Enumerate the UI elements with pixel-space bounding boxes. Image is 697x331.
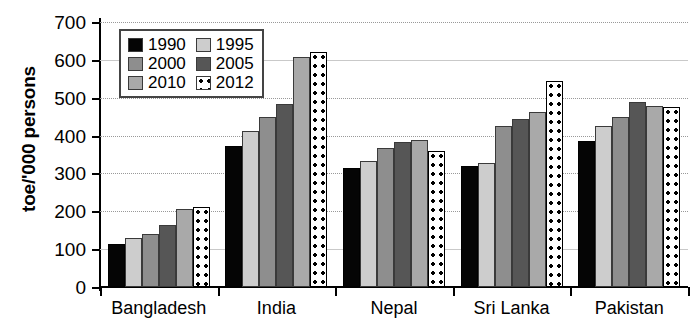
bar-india-2005 xyxy=(276,104,293,287)
bar-group-sri-lanka xyxy=(453,22,571,287)
bar-pakistan-2010 xyxy=(646,106,663,287)
bar-bangladesh-2005 xyxy=(159,225,176,287)
bar-nepal-1990 xyxy=(343,168,360,287)
y-tick-label-0: 0 xyxy=(30,278,86,297)
x-axis-label-sri-lanka: Sri Lanka xyxy=(474,298,550,319)
bar-bangladesh-2012 xyxy=(193,207,210,287)
legend-item-2005[interactable]: 2005 xyxy=(196,55,254,72)
bar-bangladesh-2000 xyxy=(142,234,159,287)
legend-label-2010: 2010 xyxy=(148,74,186,91)
y-tick-mark-600 xyxy=(92,60,100,62)
bar-chart: toe/'000 persons 0100200300400500600700 … xyxy=(0,0,697,331)
bar-nepal-2010 xyxy=(411,140,428,287)
x-tick-mark-3 xyxy=(453,287,455,296)
x-tick-mark-5 xyxy=(688,287,690,296)
bars xyxy=(578,22,680,287)
bars xyxy=(461,22,563,287)
swatch-2000-icon xyxy=(128,57,143,71)
swatch-2012-icon xyxy=(196,76,211,90)
y-tick-mark-700 xyxy=(92,22,100,24)
x-tick-mark-1 xyxy=(218,287,220,296)
x-axis-label-bangladesh: Bangladesh xyxy=(111,298,206,319)
bars xyxy=(343,22,445,287)
swatch-1995-icon xyxy=(196,38,211,52)
y-tick-label-400: 400 xyxy=(30,126,86,145)
bar-india-2000 xyxy=(259,117,276,287)
bar-sri-lanka-2010 xyxy=(529,112,546,287)
bar-india-1990 xyxy=(225,146,242,287)
bar-sri-lanka-2000 xyxy=(495,126,512,287)
bar-group-nepal xyxy=(335,22,453,287)
bar-group-pakistan xyxy=(570,22,688,287)
y-tick-mark-400 xyxy=(92,136,100,138)
legend-item-2010[interactable]: 2010 xyxy=(128,74,186,91)
bar-pakistan-1990 xyxy=(578,141,595,287)
y-tick-mark-0 xyxy=(92,287,100,289)
bar-sri-lanka-2012 xyxy=(546,81,563,287)
swatch-1990-icon xyxy=(128,38,143,52)
bar-sri-lanka-1990 xyxy=(461,166,478,287)
y-tick-label-500: 500 xyxy=(30,88,86,107)
y-tick-label-200: 200 xyxy=(30,202,86,221)
legend-item-2012[interactable]: 2012 xyxy=(196,74,254,91)
bar-india-2010 xyxy=(293,57,310,287)
bar-nepal-2005 xyxy=(394,142,411,287)
bar-india-1995 xyxy=(242,131,259,287)
y-tick-label-300: 300 xyxy=(30,164,86,183)
legend-label-1990: 1990 xyxy=(148,36,186,53)
bar-pakistan-2005 xyxy=(629,102,646,287)
bar-pakistan-2000 xyxy=(612,117,629,287)
legend-label-2005: 2005 xyxy=(216,55,254,72)
legend-label-2012: 2012 xyxy=(216,74,254,91)
bar-sri-lanka-1995 xyxy=(478,163,495,287)
swatch-2005-icon xyxy=(196,57,211,71)
y-tick-label-100: 100 xyxy=(30,240,86,259)
bar-nepal-2012 xyxy=(428,151,445,287)
y-tick-mark-500 xyxy=(92,98,100,100)
bar-sri-lanka-2005 xyxy=(512,119,529,287)
bar-bangladesh-2010 xyxy=(176,209,193,287)
x-axis-label-nepal: Nepal xyxy=(370,298,417,319)
legend-item-1995[interactable]: 1995 xyxy=(196,36,254,53)
legend-item-1990[interactable]: 1990 xyxy=(128,36,186,53)
y-tick-mark-300 xyxy=(92,173,100,175)
bar-india-2012 xyxy=(310,52,327,287)
bar-nepal-1995 xyxy=(360,161,377,287)
legend-label-2000: 2000 xyxy=(148,55,186,72)
bar-nepal-2000 xyxy=(377,148,394,287)
x-tick-mark-2 xyxy=(335,287,337,296)
bar-pakistan-2012 xyxy=(663,107,680,287)
bar-bangladesh-1995 xyxy=(125,238,142,287)
x-tick-mark-4 xyxy=(570,287,572,296)
x-axis-label-india: India xyxy=(257,298,296,319)
x-tick-mark-0 xyxy=(100,287,102,296)
swatch-2010-icon xyxy=(128,76,143,90)
legend-item-2000[interactable]: 2000 xyxy=(128,55,186,72)
y-tick-label-700: 700 xyxy=(30,13,86,32)
y-tick-mark-100 xyxy=(92,249,100,251)
legend-label-1995: 1995 xyxy=(216,36,254,53)
x-axis-label-pakistan: Pakistan xyxy=(595,298,664,319)
y-tick-mark-200 xyxy=(92,211,100,213)
bar-pakistan-1995 xyxy=(595,126,612,287)
y-tick-label-600: 600 xyxy=(30,50,86,69)
bar-bangladesh-1990 xyxy=(108,244,125,287)
legend: 199019952000200520102012 xyxy=(119,29,264,98)
